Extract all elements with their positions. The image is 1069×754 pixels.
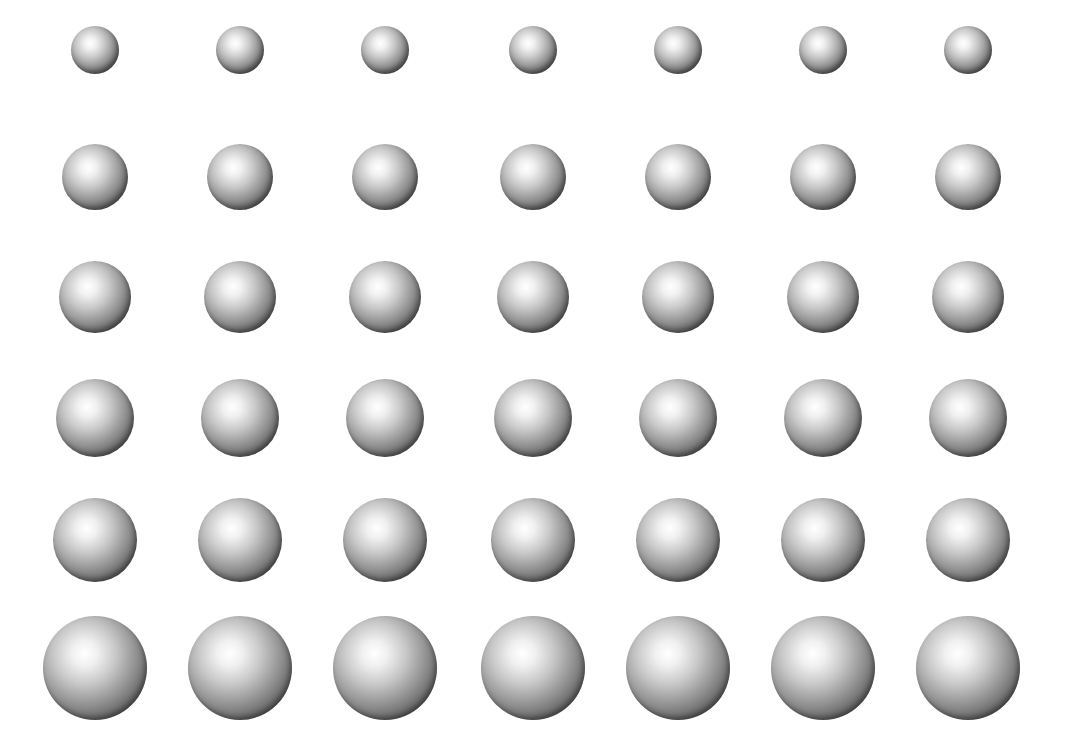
sphere [59, 261, 131, 333]
sphere [497, 261, 569, 333]
sphere [216, 26, 264, 74]
sphere [361, 26, 409, 74]
sphere [333, 616, 437, 720]
sphere [626, 616, 730, 720]
sphere [349, 261, 421, 333]
sphere [56, 379, 134, 457]
sphere [935, 144, 1001, 210]
sphere [771, 616, 875, 720]
sphere [645, 144, 711, 210]
sphere [509, 26, 557, 74]
sphere [491, 498, 575, 582]
sphere [781, 498, 865, 582]
sphere [500, 144, 566, 210]
sphere [343, 498, 427, 582]
sphere [481, 616, 585, 720]
sphere [198, 498, 282, 582]
sphere [654, 26, 702, 74]
sphere [916, 616, 1020, 720]
sphere [790, 144, 856, 210]
sphere [787, 261, 859, 333]
sphere [62, 144, 128, 210]
sphere [932, 261, 1004, 333]
sphere [207, 144, 273, 210]
sphere [53, 498, 137, 582]
sphere [71, 26, 119, 74]
sphere [929, 379, 1007, 457]
sphere [352, 144, 418, 210]
sphere [494, 379, 572, 457]
sphere [346, 379, 424, 457]
sphere [201, 379, 279, 457]
sphere [43, 616, 147, 720]
sphere [944, 26, 992, 74]
sphere [204, 261, 276, 333]
sphere [642, 261, 714, 333]
sphere [639, 379, 717, 457]
sphere [799, 26, 847, 74]
sphere [188, 616, 292, 720]
sphere [784, 379, 862, 457]
sphere [636, 498, 720, 582]
sphere [926, 498, 1010, 582]
